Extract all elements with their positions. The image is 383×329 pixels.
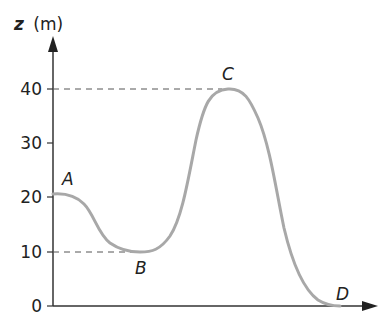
height-curve xyxy=(53,89,340,306)
y-axis-title: z (m) xyxy=(13,14,63,34)
x-axis-arrow-icon xyxy=(362,301,378,311)
y-tick-label: 20 xyxy=(20,187,42,207)
y-tick-label: 30 xyxy=(20,133,42,153)
point-label-b: B xyxy=(135,258,147,278)
y-tick-label: 40 xyxy=(20,79,42,99)
point-label-c: C xyxy=(222,64,234,84)
height-profile-chart: z (m) 40 30 20 10 0 A B C D xyxy=(0,0,383,329)
y-axis-arrow-icon xyxy=(48,36,58,52)
y-tick-label: 10 xyxy=(20,242,42,262)
y-ticks xyxy=(47,89,53,306)
point-label-a: A xyxy=(61,169,74,189)
point-label-d: D xyxy=(336,284,349,304)
y-tick-label: 0 xyxy=(31,296,42,316)
